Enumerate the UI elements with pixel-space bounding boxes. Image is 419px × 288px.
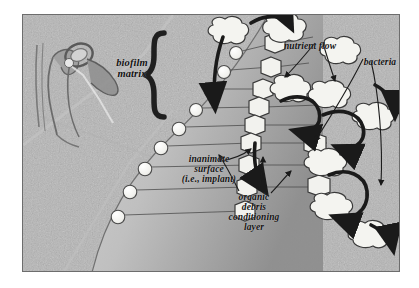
biofilm-figure: biofilm matrix nutrient flow bacteria in… xyxy=(22,14,400,272)
label-biofilm-matrix: biofilm matrix xyxy=(101,57,163,79)
label-nutrient-flow: nutrient flow xyxy=(268,41,352,51)
label-inanimate-surface: inanimate surface (i.e., implant) xyxy=(161,154,257,184)
figure-canvas xyxy=(23,15,400,272)
label-bacteria: bacteria xyxy=(349,57,400,67)
label-organic-debris: organic debris conditioning layer xyxy=(219,192,289,232)
